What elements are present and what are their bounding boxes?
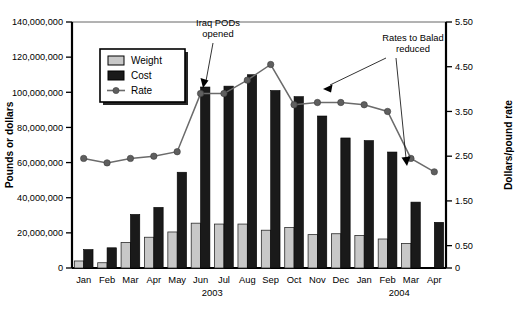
x-axis-group-label: 2003	[202, 287, 223, 298]
left-axis-tick-label: 80,000,000	[17, 123, 63, 133]
rate-data-point	[361, 102, 367, 108]
right-axis-tick-label: 5.50	[455, 17, 473, 27]
rate-data-point	[197, 90, 203, 96]
cost-bar	[224, 86, 233, 268]
annotation-rates-balad-line1: Rates to Balad	[382, 32, 444, 43]
right-axis-tick-label: 1.50	[455, 196, 473, 206]
weight-bar	[331, 234, 340, 268]
x-axis-tick-label: Sep	[262, 274, 279, 285]
rate-data-point	[267, 61, 273, 67]
rate-data-point	[384, 108, 390, 114]
annotation-iraq-pods: Iraq PODs opened	[196, 17, 240, 88]
x-axis-tick-label: Apr	[147, 274, 162, 285]
y-axis-title: Pounds or dollars	[4, 101, 15, 188]
chart-legend: Weight Cost Rate	[100, 49, 188, 105]
weight-bar	[308, 235, 317, 268]
rate-data-point	[151, 153, 157, 159]
combo-chart: 020,000,00040,000,00060,000,00080,000,00…	[0, 0, 523, 310]
rate-data-point	[127, 155, 133, 161]
x-axis-tick-label: Feb	[379, 274, 395, 285]
legend-swatch-weight	[108, 56, 124, 65]
weight-bar	[402, 243, 411, 268]
weight-bar	[74, 261, 83, 268]
legend-label-cost: Cost	[131, 70, 152, 81]
cost-bar	[107, 248, 116, 268]
left-axis-tick-label: 140,000,000	[12, 17, 63, 27]
rate-data-point	[314, 99, 320, 105]
x-axis-tick-label: Mar	[122, 274, 138, 285]
cost-bar	[177, 172, 186, 268]
x-axis-tick-label: Jul	[218, 274, 230, 285]
y2-axis-title: Dollars/pound rate	[503, 100, 514, 190]
legend-label-weight: Weight	[131, 55, 162, 66]
annotation-rates-balad-line2: reduced	[396, 43, 430, 54]
cost-bar	[247, 75, 256, 268]
left-axis-tick-label: 60,000,000	[17, 158, 63, 168]
x-axis-tick-label: Dec	[332, 274, 349, 285]
left-axis-tick-label: 20,000,000	[17, 228, 63, 238]
weight-bar	[238, 224, 247, 268]
rate-data-point	[431, 169, 437, 175]
x-axis-tick-label: Oct	[287, 274, 302, 285]
x-axis-tick-label: Jan	[357, 274, 372, 285]
right-axis-tick-label: 0	[455, 263, 460, 273]
weight-bar	[144, 237, 153, 268]
annotation-arrowhead-icon	[201, 78, 209, 88]
cost-bar	[317, 116, 326, 268]
x-axis-tick-label: Nov	[309, 274, 326, 285]
cost-bar	[130, 214, 139, 268]
rate-data-point	[244, 77, 250, 83]
cost-bar	[154, 207, 163, 268]
x-axis-group-label: 2004	[389, 287, 410, 298]
weight-bar	[98, 263, 107, 268]
right-axis: 00.501.502.503.504.505.50 Dollars/pound …	[446, 17, 514, 273]
right-axis-tick-label: 4.50	[455, 62, 473, 72]
weight-bar	[285, 228, 294, 268]
x-axis-group-labels: 20032004	[202, 287, 410, 298]
x-axis-tick-label: Jun	[193, 274, 208, 285]
annotation-arrowhead-icon-2	[323, 85, 333, 93]
left-axis-tick-label: 40,000,000	[17, 193, 63, 203]
cost-bar	[341, 138, 350, 268]
cost-bar	[294, 97, 303, 268]
weight-bar	[168, 232, 177, 268]
legend-label-rate: Rate	[131, 85, 153, 96]
cost-bar	[201, 87, 210, 268]
left-axis-tick-label: 120,000,000	[12, 52, 63, 62]
legend-swatch-cost	[108, 71, 124, 80]
cost-bar	[434, 222, 443, 268]
annotation-iraq-pods-line2: opened	[202, 28, 233, 39]
right-axis-tick-label: 2.50	[455, 151, 473, 161]
annotation-iraq-pods-line1: Iraq PODs	[196, 17, 240, 28]
weight-bar	[121, 243, 130, 268]
rate-data-point	[174, 149, 180, 155]
cost-bar	[271, 91, 280, 268]
weight-bar	[378, 239, 387, 268]
x-axis-tick-label: Feb	[99, 274, 115, 285]
x-axis-tick-label: Aug	[239, 274, 256, 285]
left-axis-tick-label: 0	[58, 263, 63, 273]
weight-bar	[215, 224, 224, 268]
x-axis-tick-label: Apr	[427, 274, 442, 285]
weight-bar	[355, 235, 364, 268]
x-axis-tick-labels: JanFebMarAprMayJunJulAugSepOctNovDecJanF…	[76, 274, 441, 285]
rate-data-point	[80, 155, 86, 161]
weight-bar	[191, 223, 200, 268]
x-axis-tick-label: May	[168, 274, 186, 285]
right-axis-tick-label: 3.50	[455, 107, 473, 117]
rate-data-point	[338, 99, 344, 105]
right-axis-tick-label: 0.50	[455, 241, 473, 251]
x-axis-tick-label: Mar	[403, 274, 419, 285]
rate-data-point	[104, 160, 110, 166]
cost-bar	[364, 141, 373, 268]
x-axis-tick-label: Jan	[76, 274, 91, 285]
chart-container: 020,000,00040,000,00060,000,00080,000,00…	[0, 0, 523, 310]
cost-bar	[84, 250, 93, 268]
weight-bar-series	[74, 223, 411, 268]
left-axis-tick-label: 100,000,000	[12, 88, 63, 98]
rate-data-point	[291, 102, 297, 108]
cost-bar	[388, 152, 397, 268]
weight-bar	[261, 230, 270, 268]
rate-data-point	[221, 90, 227, 96]
cost-bar	[411, 202, 420, 268]
